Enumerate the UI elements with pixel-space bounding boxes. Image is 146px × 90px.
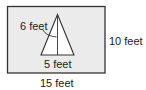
triangle-height-label: 6 feet: [20, 20, 48, 32]
rectangle-height-label: 10 feet: [109, 35, 143, 47]
rectangle-width-label: 15 feet: [40, 77, 74, 89]
triangle-base-label: 5 feet: [44, 58, 72, 70]
